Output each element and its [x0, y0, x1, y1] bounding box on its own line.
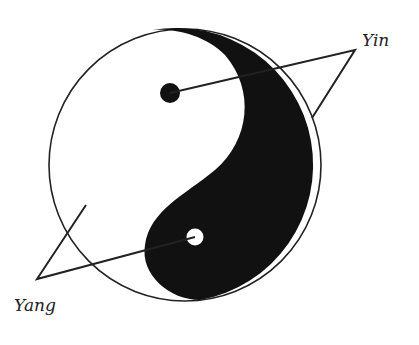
- yin-label: Yin: [362, 30, 389, 50]
- yang-label: Yang: [14, 295, 56, 315]
- yin-yang-diagram: [0, 0, 419, 345]
